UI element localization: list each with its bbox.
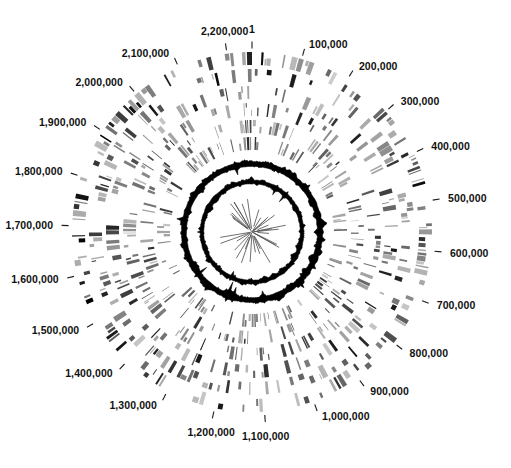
feature-segment bbox=[376, 241, 381, 245]
feature-segment bbox=[127, 235, 136, 237]
axis-tick-label: 1,400,000 bbox=[65, 367, 113, 379]
circular-genome-map: 1100,000200,000300,000400,000500,000600,… bbox=[0, 0, 511, 468]
feature-segment bbox=[253, 120, 256, 126]
axis-tick-label: 1,700,000 bbox=[5, 219, 53, 231]
feature-segment bbox=[267, 70, 272, 76]
feature-segment bbox=[123, 229, 136, 231]
feature-segment bbox=[419, 237, 425, 241]
feature-segment bbox=[351, 232, 359, 234]
feature-segment bbox=[375, 236, 381, 239]
axis-tick-mark bbox=[434, 251, 441, 252]
axis-tick-label: 200,000 bbox=[359, 60, 398, 72]
feature-segment bbox=[252, 314, 254, 327]
genome-map-canvas: 1100,000200,000300,000400,000500,000600,… bbox=[0, 0, 511, 468]
feature-segment bbox=[79, 238, 86, 242]
feature-segment bbox=[253, 371, 255, 378]
axis-tick-label: 1,200,000 bbox=[187, 426, 235, 438]
feature-segment bbox=[256, 399, 258, 406]
feature-segment bbox=[426, 223, 432, 226]
feature-segment bbox=[266, 58, 271, 66]
axis-tick-label: 900,000 bbox=[370, 385, 409, 397]
feature-segment bbox=[89, 233, 102, 237]
feature-segment bbox=[74, 204, 80, 210]
feature-segment bbox=[74, 260, 81, 267]
axis-tick-label: 400,000 bbox=[431, 140, 470, 152]
feature-segment bbox=[106, 225, 119, 230]
feature-segment bbox=[106, 230, 119, 234]
feature-segment bbox=[248, 314, 250, 321]
feature-segment bbox=[89, 244, 94, 247]
axis-tick-label: 2,000,000 bbox=[75, 76, 123, 88]
axis-tick-label: 1 bbox=[249, 23, 255, 35]
feature-segment bbox=[245, 365, 248, 373]
feature-segment bbox=[401, 213, 408, 217]
axis-tick-label: 1,100,000 bbox=[242, 430, 290, 442]
axis-tick-label: 2,200,000 bbox=[201, 25, 249, 37]
axis-tick-label: 1,000,000 bbox=[322, 410, 370, 422]
feature-segment bbox=[247, 52, 252, 65]
feature-segment bbox=[250, 120, 252, 133]
axis-tick-label: 1,900,000 bbox=[39, 116, 87, 128]
axis-tick-label: 1,800,000 bbox=[15, 165, 63, 177]
axis-tick-label: 2,100,000 bbox=[122, 47, 170, 59]
axis-tick-label: 700,000 bbox=[437, 299, 476, 311]
axis-tick-label: 300,000 bbox=[401, 95, 440, 107]
feature-segment bbox=[248, 69, 252, 82]
feature-segment bbox=[123, 233, 136, 234]
axis-tick-label: 1,500,000 bbox=[32, 324, 80, 336]
feature-segment bbox=[242, 405, 244, 412]
feature-segment bbox=[368, 229, 375, 231]
feature-segment bbox=[157, 231, 170, 234]
feature-segment bbox=[255, 69, 258, 76]
axis-tick-label: 1,600,000 bbox=[11, 273, 59, 285]
axis-tick-label: 100,000 bbox=[309, 38, 348, 50]
axis-tick-label: 800,000 bbox=[410, 347, 449, 359]
feature-segment bbox=[93, 237, 102, 241]
feature-segment bbox=[251, 110, 252, 116]
feature-segment bbox=[249, 382, 250, 395]
feature-segment bbox=[164, 234, 170, 237]
axis-tick-label: 1,300,000 bbox=[109, 399, 157, 411]
axis-tick-label: 500,000 bbox=[448, 192, 487, 204]
axis-tick-label: 600,000 bbox=[450, 247, 489, 259]
feature-segment bbox=[419, 229, 432, 234]
feature-segment bbox=[418, 243, 425, 248]
